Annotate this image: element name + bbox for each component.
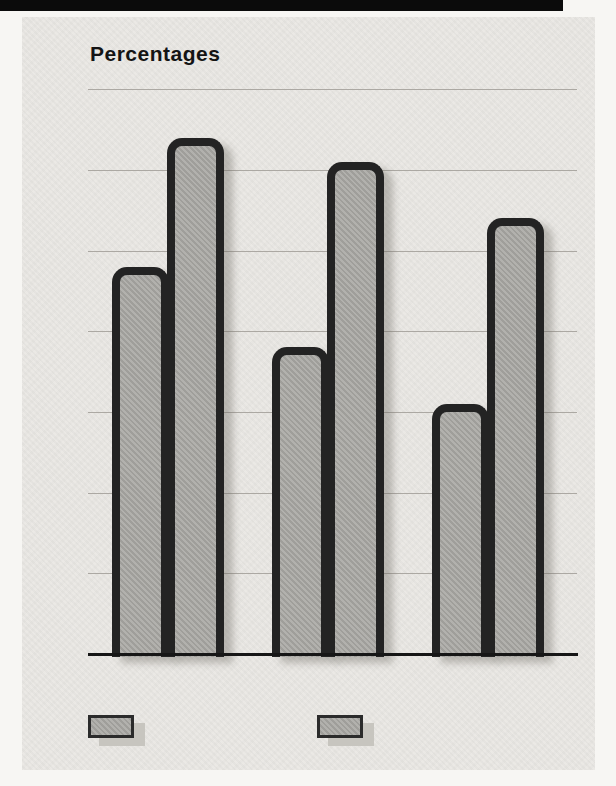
legend-swatch-series1	[317, 715, 363, 738]
chart-title: Percentages	[90, 42, 220, 66]
x-axis-line	[88, 653, 578, 656]
bar-1972-series0	[112, 267, 169, 657]
scanned-page: Percentages	[0, 0, 616, 786]
bar-1992-series0	[272, 347, 329, 657]
page-top-rule	[0, 0, 563, 11]
bar-1996-series1	[487, 218, 544, 657]
bar-1972-series1	[167, 138, 224, 657]
bar-1992-series1	[327, 162, 384, 657]
bar-1996-series0	[432, 404, 489, 657]
gridline-70	[88, 89, 577, 90]
legend-swatch-series0	[88, 715, 134, 738]
